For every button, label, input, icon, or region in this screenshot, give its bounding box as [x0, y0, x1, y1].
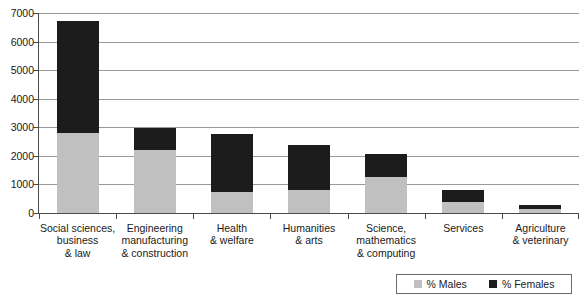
- x-axis-category-label-line: & veterinary: [502, 234, 579, 246]
- x-axis-category-label-line: & welfare: [193, 234, 270, 246]
- x-axis-category-label: Humanities& arts: [270, 222, 347, 247]
- x-axis-category-label-line: manufacturing: [116, 234, 193, 246]
- x-axis-category-label-line: Services: [425, 222, 502, 234]
- x-tick-mark: [193, 214, 194, 219]
- bar-segment-females[interactable]: [442, 190, 484, 202]
- y-tick-label: 7000: [0, 8, 34, 18]
- x-axis-category-label: Services: [425, 222, 502, 234]
- y-tick-label: 4000: [0, 94, 34, 104]
- bar-segment-females[interactable]: [288, 145, 330, 190]
- bar-segment-females[interactable]: [57, 21, 99, 133]
- chart-legend: % Males % Females: [396, 274, 572, 294]
- x-axis-category-label-line: & computing: [348, 247, 425, 259]
- x-tick-mark: [270, 214, 271, 219]
- bar-stack[interactable]: [134, 128, 176, 213]
- legend-swatch-males-icon: [414, 280, 422, 288]
- y-tick-mark: [33, 156, 38, 157]
- x-axis-category-label-line: mathematics: [348, 234, 425, 246]
- x-axis-category-labels: Social sciences,business& lawEngineering…: [39, 222, 579, 272]
- x-axis-category-label-line: Humanities: [270, 222, 347, 234]
- x-tick-mark: [348, 214, 349, 219]
- y-tick-label: 5000: [0, 65, 34, 75]
- x-tick-mark: [116, 214, 117, 219]
- y-tick-mark: [33, 127, 38, 128]
- x-axis-category-label-line: Engineering: [116, 222, 193, 234]
- y-tick-mark: [33, 184, 38, 185]
- x-axis-category-label-line: Social sciences,: [39, 222, 116, 234]
- y-tick-label: 6000: [0, 37, 34, 47]
- y-tick-label: 2000: [0, 151, 34, 161]
- x-axis-category-label: Science,mathematics& computing: [348, 222, 425, 259]
- x-axis-category-label: Agriculture& veterinary: [502, 222, 579, 247]
- bar-slot: [39, 13, 116, 213]
- legend-swatch-females-icon: [489, 280, 497, 288]
- bars-layer: [39, 13, 579, 213]
- x-axis-category-label: Health& welfare: [193, 222, 270, 247]
- x-axis-category-label: Social sciences,business& law: [39, 222, 116, 259]
- y-axis-tick-labels: 01000200030004000500060007000: [0, 13, 34, 213]
- x-axis-category-label: Engineeringmanufacturing& construction: [116, 222, 193, 259]
- bar-stack[interactable]: [365, 154, 407, 213]
- x-tick-mark: [578, 214, 579, 219]
- bar-segment-females[interactable]: [134, 128, 176, 149]
- x-axis-line: [39, 213, 579, 214]
- x-axis-category-label-line: & law: [39, 247, 116, 259]
- y-tick-label: 3000: [0, 122, 34, 132]
- bar-segment-males[interactable]: [57, 133, 99, 213]
- x-axis-category-label-line: business: [39, 234, 116, 246]
- bar-stack[interactable]: [442, 190, 484, 213]
- y-tick-label: 0: [0, 208, 34, 218]
- y-tick-mark: [33, 99, 38, 100]
- bar-segment-females[interactable]: [211, 134, 253, 192]
- x-tick-mark: [502, 214, 503, 219]
- x-tick-mark: [425, 214, 426, 219]
- bar-stack[interactable]: [519, 205, 561, 213]
- legend-label-females: % Females: [502, 279, 555, 290]
- bar-slot: [348, 13, 425, 213]
- bar-segment-males[interactable]: [442, 202, 484, 213]
- bar-segment-males[interactable]: [134, 150, 176, 213]
- y-tick-mark: [33, 70, 38, 71]
- bar-slot: [425, 13, 502, 213]
- y-tick-mark: [33, 213, 38, 214]
- stacked-bar-chart: 01000200030004000500060007000 Social sci…: [0, 0, 584, 304]
- x-axis-category-label-line: Science,: [348, 222, 425, 234]
- bar-slot: [193, 13, 270, 213]
- legend-entry-females[interactable]: % Females: [489, 279, 555, 290]
- y-tick-mark: [33, 13, 38, 14]
- bar-slot: [116, 13, 193, 213]
- x-axis-category-label-line: Agriculture: [502, 222, 579, 234]
- bar-slot: [270, 13, 347, 213]
- legend-entry-males[interactable]: % Males: [414, 279, 467, 290]
- bar-slot: [502, 13, 579, 213]
- plot-area: [39, 13, 579, 213]
- y-tick-label: 1000: [0, 179, 34, 189]
- x-axis-category-label-line: & construction: [116, 247, 193, 259]
- x-tick-mark: [39, 214, 40, 219]
- bar-stack[interactable]: [288, 145, 330, 213]
- x-axis-category-label-line: & arts: [270, 234, 347, 246]
- legend-label-males: % Males: [427, 279, 467, 290]
- bar-stack[interactable]: [211, 134, 253, 213]
- bar-segment-males[interactable]: [211, 192, 253, 213]
- bar-segment-males[interactable]: [365, 177, 407, 213]
- x-axis-category-label-line: Health: [193, 222, 270, 234]
- bar-segment-males[interactable]: [288, 190, 330, 213]
- bar-segment-females[interactable]: [365, 154, 407, 177]
- bar-stack[interactable]: [57, 21, 99, 213]
- y-tick-mark: [33, 42, 38, 43]
